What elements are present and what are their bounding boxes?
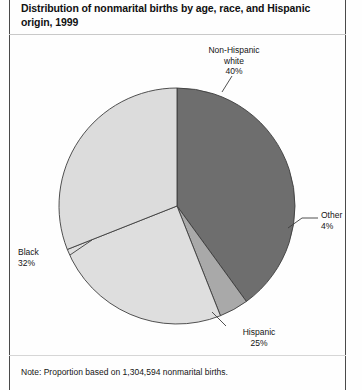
pie-label-non-hispanic-white: Non-Hispanic white 40% (186, 45, 282, 77)
pie-label-hispanic: Hispanic 25% (228, 327, 290, 348)
pie-wedges (59, 88, 295, 324)
pie-label-black: Black 32% (18, 247, 68, 268)
chart-footnote: Note: Proportion based on 1,304,594 nonm… (21, 367, 331, 378)
pie-chart (0, 0, 362, 390)
pie-label-other: Other 4% (321, 210, 361, 231)
leader-line-non-hispanic-white (222, 76, 232, 92)
figure-container: Distribution of nonmarital births by age… (0, 0, 362, 390)
